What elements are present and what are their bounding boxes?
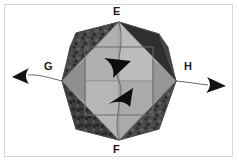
diagram-stage: E F G H	[0, 0, 239, 163]
axis-label-h: H	[184, 61, 192, 72]
axis-arrowhead-left	[12, 68, 29, 84]
polyhedron-figure	[0, 0, 239, 163]
vertex-label-f: F	[113, 144, 120, 155]
rotation-axis-right	[176, 77, 226, 93]
vertex-label-e: E	[113, 6, 120, 17]
axis-label-g: G	[44, 61, 53, 72]
axis-arrowhead-right	[206, 77, 226, 93]
rotation-axis-left	[12, 68, 62, 84]
